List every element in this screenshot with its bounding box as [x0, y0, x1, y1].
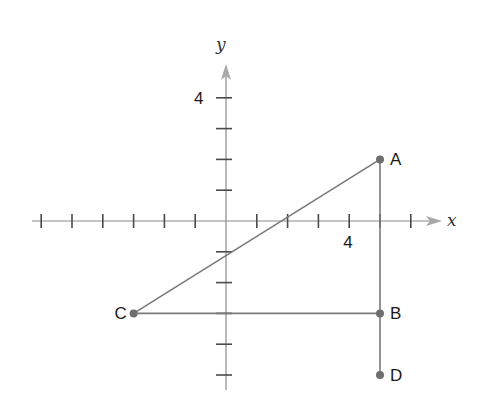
point-A — [376, 155, 384, 163]
point-label-A: A — [390, 150, 402, 169]
point-label-C: C — [115, 304, 127, 323]
segments — [134, 159, 380, 375]
x-axis-label: x — [447, 210, 457, 230]
coordinate-plane: ABCD x y 4 4 — [0, 0, 484, 414]
point-C — [130, 309, 138, 317]
y-axis-label: y — [215, 34, 226, 54]
points: ABCD — [115, 150, 403, 385]
point-D — [376, 371, 384, 379]
point-label-D: D — [390, 366, 402, 385]
x-tick-label-4: 4 — [343, 233, 352, 252]
y-tick-label-4: 4 — [194, 89, 203, 108]
point-label-B: B — [390, 304, 401, 323]
point-B — [376, 309, 384, 317]
